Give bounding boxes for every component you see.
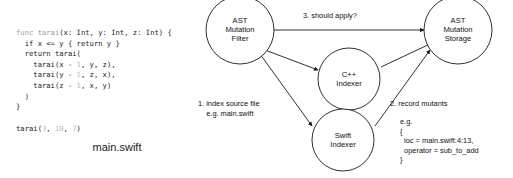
node-ast-mutation-storage — [424, 0, 492, 64]
edge-filter-to-cpp-indexer — [265, 50, 318, 70]
edge-swift-indexer-to-storage — [375, 50, 430, 126]
diagram-screenshot: func tarai(x: Int, y: Int, z: Int) { if … — [0, 0, 513, 178]
node-cpp-indexer — [318, 48, 380, 110]
edge-cpp-indexer-to-storage — [381, 43, 432, 67]
annotation-index-source-file: 1. index source file e.g. main.swift — [198, 99, 260, 118]
node-ast-mutation-filter — [206, 0, 274, 64]
annotation-should-apply: 3. should apply? — [303, 11, 357, 21]
annotation-record-mutants-title: 2. record mutants — [390, 99, 448, 109]
annotation-record-mutants-body: e.g. { loc = main.swift:4:13, operator =… — [400, 117, 479, 165]
node-swift-indexer — [312, 109, 374, 171]
